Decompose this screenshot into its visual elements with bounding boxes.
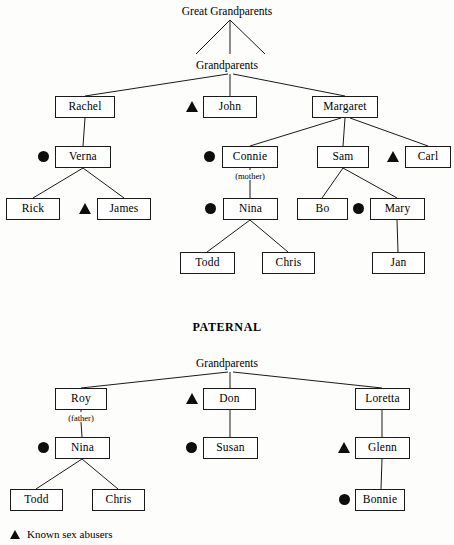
node-bonnie[interactable]: Bonnie — [355, 489, 405, 511]
legend-item-abusers: Known sex abusers — [10, 528, 113, 540]
roy-father-label: (father) — [41, 414, 121, 423]
node-sam[interactable]: Sam — [317, 146, 369, 168]
node-jan[interactable]: Jan — [372, 252, 425, 274]
node-bo[interactable]: Bo — [297, 198, 348, 220]
node-susan[interactable]: Susan — [203, 437, 258, 459]
triangle-marker-james — [79, 203, 91, 214]
node-verna[interactable]: Verna — [55, 146, 111, 168]
triangle-marker-john — [186, 101, 198, 112]
node-rachel[interactable]: Rachel — [55, 96, 115, 118]
node-chris-maternal[interactable]: Chris — [262, 252, 315, 274]
node-chris-paternal[interactable]: Chris — [92, 489, 145, 511]
circle-marker-verna — [38, 151, 49, 162]
node-rick[interactable]: Rick — [6, 198, 60, 220]
paternal-grandparents-label: Grandparents — [0, 358, 454, 370]
circle-marker-mary — [353, 203, 364, 214]
triangle-marker-carl — [387, 151, 399, 162]
node-loretta[interactable]: Loretta — [355, 388, 410, 410]
circle-marker-susan — [186, 442, 197, 453]
node-nina-paternal[interactable]: Nina — [55, 437, 110, 459]
maternal-grandparents-label: Grandparents — [0, 60, 454, 72]
node-james[interactable]: James — [97, 198, 151, 220]
maternal-root-label: Great Grandparents — [0, 6, 454, 18]
node-margaret[interactable]: Margaret — [312, 96, 378, 118]
node-john[interactable]: John — [203, 96, 257, 118]
triangle-marker-don — [186, 393, 198, 404]
triangle-icon — [10, 530, 20, 539]
node-nina-maternal[interactable]: Nina — [223, 198, 278, 220]
circle-marker-nina-maternal — [205, 203, 216, 214]
circle-marker-connie — [204, 151, 215, 162]
node-roy[interactable]: Roy — [55, 388, 107, 410]
node-carl[interactable]: Carl — [405, 146, 451, 168]
triangle-marker-glenn — [338, 442, 350, 453]
node-todd-maternal[interactable]: Todd — [180, 252, 235, 274]
legend-label-abusers: Known sex abusers — [27, 528, 113, 540]
node-todd-paternal[interactable]: Todd — [10, 489, 63, 511]
circle-marker-nina-paternal — [38, 442, 49, 453]
node-glenn[interactable]: Glenn — [355, 437, 410, 459]
node-don[interactable]: Don — [203, 388, 256, 410]
circle-marker-bonnie — [339, 494, 350, 505]
node-connie[interactable]: Connie — [222, 146, 278, 168]
paternal-section-title: PATERNAL — [0, 320, 454, 335]
genogram-canvas: Great Grandparents Grandparents Rachel J… — [0, 0, 454, 545]
connie-mother-label: (mother) — [210, 172, 290, 181]
node-mary[interactable]: Mary — [370, 198, 425, 220]
